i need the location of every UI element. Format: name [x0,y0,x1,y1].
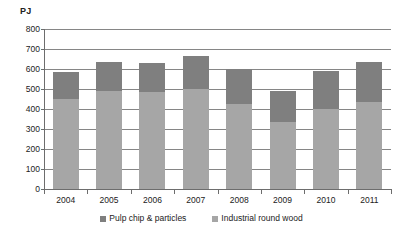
chart-legend: Pulp chip & particlesIndustrial round wo… [0,214,403,223]
x-axis-tick-mark [261,190,262,194]
bar-segment-industrial-round-wood[interactable] [313,109,339,189]
y-axis-tick-label: 0 [14,185,40,194]
bar-segment-industrial-round-wood[interactable] [226,104,252,189]
x-axis-tick-mark [87,190,88,194]
x-axis-tick-mark [174,190,175,194]
bar-segment-pulp-chip-particles[interactable] [139,63,165,92]
x-axis-tick-mark [348,190,349,194]
y-axis-tick-mark [41,29,45,30]
bar-segment-industrial-round-wood[interactable] [139,92,165,189]
bar-group[interactable] [356,29,382,189]
bar-group[interactable] [183,29,209,189]
bar-segment-industrial-round-wood[interactable] [96,91,122,189]
y-axis-tick-label: 100 [14,165,40,174]
x-axis-tick-mark [304,190,305,194]
x-axis-tick-mark [218,190,219,194]
bar-segment-industrial-round-wood[interactable] [356,102,382,189]
bar-group[interactable] [226,29,252,189]
y-axis-tick-label: 600 [14,65,40,74]
x-axis-tick-label: 2006 [130,196,174,205]
legend-label: Industrial round wood [221,214,302,223]
x-axis-tick-mark [391,190,392,194]
legend-swatch-icon [212,216,218,222]
bar-segment-industrial-round-wood[interactable] [183,89,209,189]
legend-item[interactable]: Pulp chip & particles [100,214,186,223]
y-axis-tick-label: 200 [14,145,40,154]
y-axis-tick-mark [41,69,45,70]
y-axis-tick-mark [41,109,45,110]
bar-segment-pulp-chip-particles[interactable] [270,91,296,122]
bar-segment-pulp-chip-particles[interactable] [356,62,382,102]
y-axis-tick-label: 700 [14,45,40,54]
x-axis-tick-label: 2010 [304,196,348,205]
y-axis-tick-label: 800 [14,25,40,34]
x-axis-tick-label: 2007 [174,196,218,205]
legend-label: Pulp chip & particles [109,214,186,223]
x-axis-tick-label: 2011 [347,196,391,205]
x-axis-tick-label: 2005 [87,196,131,205]
bar-segment-pulp-chip-particles[interactable] [53,72,79,99]
y-axis-tick-mark [41,89,45,90]
legend-swatch-icon [100,216,106,222]
legend-item[interactable]: Industrial round wood [212,214,302,223]
bar-segment-pulp-chip-particles[interactable] [313,71,339,109]
bar-segment-pulp-chip-particles[interactable] [183,56,209,89]
x-axis-tick-mark [44,190,45,194]
bar-segment-industrial-round-wood[interactable] [53,99,79,189]
bar-group[interactable] [53,29,79,189]
bar-segment-pulp-chip-particles[interactable] [226,69,252,104]
y-axis-tick-label: 400 [14,105,40,114]
bar-group[interactable] [270,29,296,189]
x-axis-tick-label: 2008 [217,196,261,205]
bar-segment-pulp-chip-particles[interactable] [96,62,122,91]
y-axis-tick-mark [41,49,45,50]
y-axis-tick-mark [41,149,45,150]
bar-segment-industrial-round-wood[interactable] [270,122,296,189]
bar-group[interactable] [139,29,165,189]
y-axis-tick-label: 500 [14,85,40,94]
x-axis-tick-label: 2004 [44,196,88,205]
bar-group[interactable] [96,29,122,189]
y-axis-tick-labels: 8007006005004003002001000 [10,29,40,190]
y-axis-tick-mark [41,169,45,170]
y-axis-unit-label: PJ [20,6,31,16]
x-axis-tick-label: 2009 [261,196,305,205]
stacked-bar-chart: PJ 8007006005004003002001000 Pulp chip &… [0,0,403,243]
plot-area [44,29,391,189]
bar-group[interactable] [313,29,339,189]
y-axis-tick-label: 300 [14,125,40,134]
x-axis-tick-mark [131,190,132,194]
y-axis-tick-mark [41,129,45,130]
